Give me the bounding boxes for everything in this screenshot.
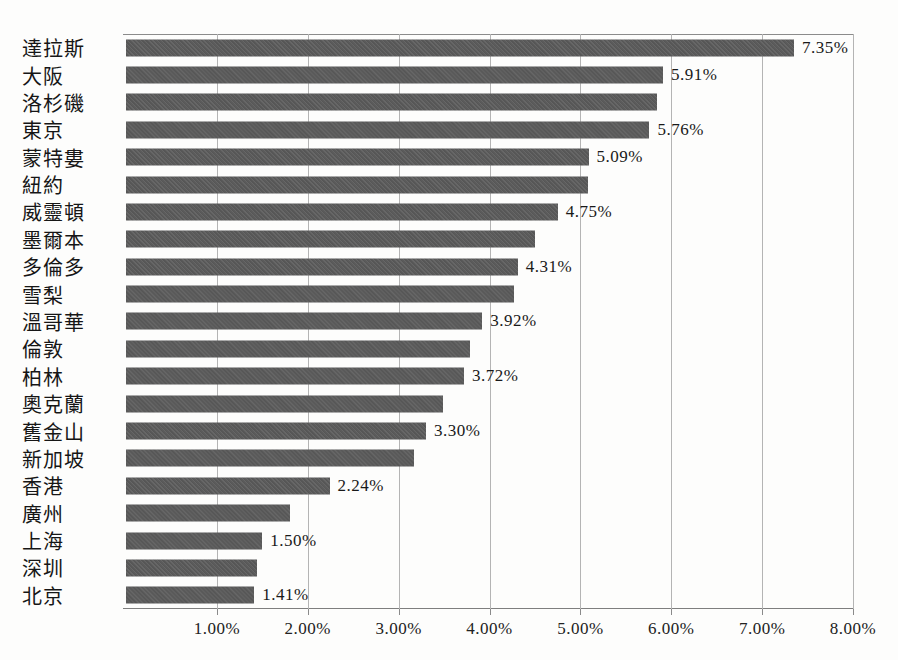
category-label: 洛杉磯 [22,89,124,116]
category-label: 威靈頓 [22,198,124,225]
value-label: 1.41% [262,585,308,605]
bar-chart-figure: 達拉斯大阪洛杉磯東京蒙特婁紐約威靈頓墨爾本多倫多雪梨溫哥華倫敦柏林奧克蘭舊金山新… [0,0,898,660]
bar-row [126,445,853,472]
x-axis-tick-label: 6.00% [648,619,694,639]
bar [126,231,535,248]
bar-row: 5.91% [126,61,853,88]
value-label: 2.24% [338,476,384,496]
bar [126,149,589,166]
value-label: 3.30% [434,421,480,441]
bar [126,340,470,357]
x-axis-tickmark [853,609,854,615]
category-label: 多倫多 [22,253,124,280]
category-label: 上海 [22,527,124,554]
bar [126,313,482,330]
x-axis-tick-label: 3.00% [375,619,421,639]
bar-row: 3.72% [126,363,853,390]
category-label: 東京 [22,116,124,143]
category-label: 柏林 [22,363,124,390]
bar [126,203,558,220]
bar-row [126,226,853,253]
bar-row: 7.35% [126,34,853,61]
value-label: 5.76% [657,120,703,140]
x-axis-tick-label: 7.00% [739,619,785,639]
x-axis-tick-labels: 1.00%2.00%3.00%4.00%5.00%6.00%7.00%8.00% [126,615,853,645]
bar [126,505,290,522]
gridline [853,34,854,609]
bar [126,477,330,494]
bar-row: 1.50% [126,527,853,554]
bar [126,450,414,467]
bar [126,39,794,56]
bar-row: 4.75% [126,198,853,225]
bar-row: 1.41% [126,582,853,609]
bar [126,395,443,412]
value-label: 5.09% [597,147,643,167]
bar [126,176,588,193]
bar [126,368,464,385]
bar [126,587,254,604]
category-label: 舊金山 [22,417,124,444]
category-label: 達拉斯 [22,34,124,61]
bar [126,121,649,138]
category-label: 倫敦 [22,335,124,362]
bar [126,94,657,111]
bar [126,423,426,440]
x-axis-tick-label: 1.00% [194,619,240,639]
category-label: 香港 [22,472,124,499]
category-label: 溫哥華 [22,308,124,335]
bar-row: 5.09% [126,144,853,171]
category-label: 廣州 [22,499,124,526]
bar-row: 4.31% [126,253,853,280]
bar-row [126,335,853,362]
x-axis-tick-label: 8.00% [830,619,876,639]
value-label: 5.91% [671,65,717,85]
value-label: 4.31% [526,257,572,277]
category-label: 新加坡 [22,445,124,472]
bar-row: 3.92% [126,308,853,335]
x-axis-tick-label: 5.00% [557,619,603,639]
x-axis-tick-label: 2.00% [285,619,331,639]
value-label: 3.92% [490,311,536,331]
category-label: 大阪 [22,61,124,88]
bar-row [126,171,853,198]
bar-row [126,280,853,307]
bar-row [126,554,853,581]
bar-row [126,499,853,526]
category-axis-labels: 達拉斯大阪洛杉磯東京蒙特婁紐約威靈頓墨爾本多倫多雪梨溫哥華倫敦柏林奧克蘭舊金山新… [22,34,124,609]
bar [126,559,257,576]
category-label: 奧克蘭 [22,390,124,417]
category-label: 蒙特婁 [22,144,124,171]
value-label: 7.35% [802,38,848,58]
bar-row: 2.24% [126,472,853,499]
bar-row [126,390,853,417]
value-label: 1.50% [270,531,316,551]
category-label: 北京 [22,582,124,609]
value-label: 4.75% [566,202,612,222]
bar [126,532,262,549]
x-axis-tick-label: 4.00% [466,619,512,639]
plot-area: 7.35%5.91%5.76%5.09%4.75%4.31%3.92%3.72%… [126,34,853,609]
category-label: 紐約 [22,171,124,198]
bar-row: 5.76% [126,116,853,143]
category-label: 墨爾本 [22,226,124,253]
value-label: 3.72% [472,366,518,386]
bar [126,258,518,275]
bar-row [126,89,853,116]
bar [126,286,514,303]
bar [126,67,663,84]
bar-row: 3.30% [126,417,853,444]
category-label: 深圳 [22,554,124,581]
category-label: 雪梨 [22,280,124,307]
